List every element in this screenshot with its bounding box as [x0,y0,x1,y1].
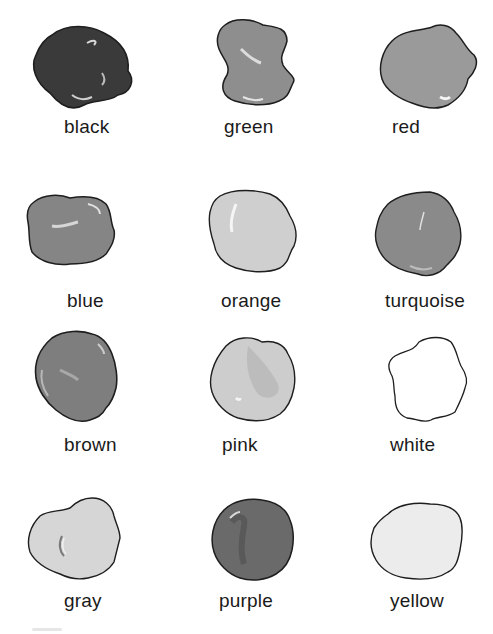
red-paint-blob [378,23,478,113]
label-yellow: yellow [390,590,444,612]
purple-paint-blob [210,496,296,582]
label-black: black [64,116,109,138]
orange-paint-blob [208,190,298,274]
green-paint-blob [213,17,303,107]
label-green: green [224,116,274,138]
gray-paint-blob [26,496,122,582]
yellow-paint-blob [370,500,466,582]
label-red: red [392,116,420,138]
page-smudge [32,628,62,631]
brown-paint-blob [34,330,120,424]
label-purple: purple [219,590,273,612]
label-gray: gray [64,590,102,612]
white-paint-blob [385,334,471,424]
label-brown: brown [64,434,117,456]
turquoise-paint-blob [374,190,464,280]
label-orange: orange [221,290,281,312]
label-pink: pink [222,434,258,456]
label-turquoise: turquoise [385,290,465,312]
pink-paint-blob [208,336,298,424]
black-paint-blob [32,23,132,113]
blue-paint-blob [26,192,116,268]
label-blue: blue [67,290,104,312]
label-white: white [390,434,435,456]
